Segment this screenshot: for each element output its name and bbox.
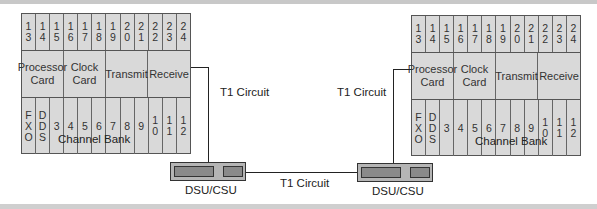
processor-card: Processor Card (412, 53, 454, 99)
middle-t1-circuit-label: T1 Circuit (280, 177, 329, 189)
slot-12: 1 2 (177, 98, 190, 154)
dsu-panel-icon (410, 167, 430, 178)
left-dsu-csu-device (170, 162, 246, 181)
left-bottom-slots: F X O D D S 3 4 5 6 7 8 9 1 0 1 1 1 2 (22, 98, 190, 154)
slot-5: 5 (468, 100, 482, 156)
left-top-slots: 1 3 1 4 1 5 1 6 1 7 1 8 1 9 2 0 2 1 2 2 … (22, 14, 190, 50)
slot-11: 1 1 (163, 98, 177, 154)
processor-card: Processor Card (22, 51, 64, 97)
slot-10: 1 0 (149, 98, 163, 154)
right-dsu-csu-label: DSU/CSU (372, 185, 424, 197)
slot-9: 9 (525, 100, 539, 156)
slot-fxo: F X O (22, 98, 36, 154)
slot-10: 1 0 (539, 100, 553, 156)
slot-6: 6 (482, 100, 496, 156)
slot-9: 9 (135, 98, 149, 154)
slot-21: 2 1 (135, 14, 149, 50)
right-card-row: Processor Card Clock Card Transmit Recei… (412, 52, 580, 100)
slot-21: 2 1 (525, 16, 539, 52)
slot-24: 2 4 (177, 14, 190, 50)
slot-3: 3 (50, 98, 64, 154)
slot-20: 2 0 (121, 14, 135, 50)
slot-15: 1 5 (50, 14, 64, 50)
top-border (0, 0, 597, 4)
slot-8: 8 (511, 100, 525, 156)
bottom-border (0, 204, 597, 209)
slot-17: 1 7 (468, 16, 482, 52)
slot-14: 1 4 (426, 16, 440, 52)
dsu-panel-icon (223, 166, 243, 177)
slot-7: 7 (496, 100, 510, 156)
slot-4: 4 (64, 98, 78, 154)
slot-3: 3 (440, 100, 454, 156)
receive-card: Receive (148, 51, 190, 97)
slot-4: 4 (454, 100, 468, 156)
left-card-row: Processor Card Clock Card Transmit Recei… (22, 50, 190, 98)
slot-19: 1 9 (496, 16, 510, 52)
slot-12: 1 2 (567, 100, 580, 156)
slot-14: 1 4 (36, 14, 50, 50)
slot-16: 1 6 (64, 14, 78, 50)
right-dsu-csu-device (357, 163, 433, 182)
right-t1-wire-horizontal (393, 69, 411, 70)
transmit-card: Transmit (106, 51, 148, 97)
slot-24: 2 4 (567, 16, 580, 52)
slot-dds: D D S (426, 100, 440, 156)
slot-17: 1 7 (78, 14, 92, 50)
slot-20: 2 0 (511, 16, 525, 52)
slot-fxo: F X O (412, 100, 426, 156)
slot-18: 1 8 (92, 14, 106, 50)
right-t1-wire-vertical (393, 69, 394, 163)
slot-13: 1 3 (22, 14, 36, 50)
left-channel-bank-label: Channel Bank (58, 133, 130, 145)
dsu-panel-icon (174, 166, 214, 177)
right-channel-bank-label: Channel Bank (475, 135, 547, 147)
slot-22: 2 2 (149, 14, 163, 50)
slot-5: 5 (78, 98, 92, 154)
slot-dds: D D S (36, 98, 50, 154)
slot-19: 1 9 (106, 14, 120, 50)
slot-6: 6 (92, 98, 106, 154)
right-bottom-slots: F X O D D S 3 4 5 6 7 8 9 1 0 1 1 1 2 (412, 100, 580, 156)
left-t1-wire-vertical (208, 67, 209, 162)
left-t1-circuit-label: T1 Circuit (220, 86, 269, 98)
slot-22: 2 2 (539, 16, 553, 52)
slot-7: 7 (106, 98, 120, 154)
right-top-slots: 1 3 1 4 1 5 1 6 1 7 1 8 1 9 2 0 2 1 2 2 … (412, 16, 580, 52)
right-t1-circuit-label: T1 Circuit (337, 86, 386, 98)
slot-8: 8 (121, 98, 135, 154)
receive-card: Receive (538, 53, 580, 99)
slot-18: 1 8 (482, 16, 496, 52)
clock-card: Clock Card (454, 53, 496, 99)
left-dsu-csu-label: DSU/CSU (185, 184, 237, 196)
slot-23: 2 3 (553, 16, 567, 52)
clock-card: Clock Card (64, 51, 106, 97)
slot-11: 1 1 (553, 100, 567, 156)
slot-23: 2 3 (163, 14, 177, 50)
slot-16: 1 6 (454, 16, 468, 52)
transmit-card: Transmit (496, 53, 538, 99)
left-t1-wire-horizontal (191, 67, 209, 68)
slot-13: 1 3 (412, 16, 426, 52)
dsu-panel-icon (361, 167, 401, 178)
slot-15: 1 5 (440, 16, 454, 52)
